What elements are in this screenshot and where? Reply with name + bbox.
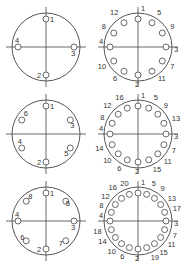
bolt-hole (151, 195, 157, 201)
bolt-hole (119, 195, 125, 201)
bolt-hole (162, 227, 168, 233)
bolt-hole (135, 246, 141, 252)
hole-number-label: 8 (100, 113, 104, 122)
bolt-hole (43, 16, 49, 22)
bolt-hole (124, 105, 130, 111)
hole-number-label: 8 (102, 22, 106, 31)
hole-number-label: 3 (71, 49, 75, 58)
hole-number-label: 11 (164, 157, 172, 166)
hole-number-label: 1 (141, 4, 145, 13)
bolt-hole (151, 241, 157, 247)
bolt-hole (109, 120, 115, 126)
bolt-hole (144, 245, 150, 251)
bolt-hole (158, 234, 164, 240)
bolt-hole (163, 218, 169, 224)
bolt-hole (149, 68, 155, 74)
bolt-hole (135, 159, 141, 165)
hole-number-label: 6 (113, 74, 117, 83)
bolt-hole (124, 157, 130, 163)
bolt-hole (43, 103, 49, 109)
hole-number-label: 9 (170, 22, 174, 31)
hole-number-label: 3 (70, 121, 74, 130)
bolt-hole (115, 151, 121, 157)
bolt-hole (126, 191, 132, 197)
hole-number-label: 19 (151, 253, 159, 262)
hole-number-label: 16 (109, 183, 117, 192)
bolt-hole (144, 191, 150, 197)
hole-number-label: 4 (18, 137, 22, 146)
hole-number-label: 10 (103, 156, 111, 165)
hole-number-label: 5 (64, 149, 68, 158)
pattern-4: 1324 (6, 7, 86, 87)
bolt-hole (161, 120, 167, 126)
hole-number-label: 13 (168, 194, 176, 203)
bolt-hole (146, 157, 152, 163)
pattern-6: 135246 (6, 94, 86, 174)
bolt-hole (112, 202, 118, 208)
bolt-hole (43, 246, 49, 252)
bolt-hole (63, 238, 69, 244)
hole-number-label: 6 (24, 109, 28, 118)
hole-number-label: 6 (20, 233, 24, 242)
hole-number-label: 13 (172, 114, 180, 123)
hole-number-label: 6 (117, 164, 121, 173)
bolt-hole (159, 58, 165, 64)
hole-number-label: 5 (154, 93, 158, 102)
hole-number-label: 9 (160, 184, 164, 193)
pattern-12: 159371126104812 (98, 4, 178, 89)
hole-number-label: 1 (141, 178, 145, 187)
hole-number-label: 1 (50, 102, 54, 111)
bolt-hole (108, 227, 114, 233)
bolt-hole (159, 30, 165, 36)
bolt-hole (135, 16, 141, 22)
hole-number-label: 7 (59, 239, 63, 248)
hole-number-label: 7 (172, 146, 176, 155)
hole-number-label: 3 (174, 132, 178, 141)
bolt-hole (126, 245, 132, 251)
bolt-hole (158, 202, 164, 208)
hole-number-label: 17 (173, 204, 181, 213)
bolt-hole (43, 159, 49, 165)
hole-number-label: 16 (115, 93, 123, 102)
bolt-hole (107, 218, 113, 224)
hole-number-label: 1 (50, 189, 54, 198)
bolt-hole (135, 72, 141, 78)
hole-number-label: 2 (135, 80, 139, 89)
hole-number-label: 11 (168, 240, 176, 249)
bolt-hole (43, 190, 49, 196)
hole-number-label: 2 (135, 254, 139, 263)
hole-number-label: 4 (15, 36, 19, 45)
bolt-hole (155, 111, 161, 117)
hole-number-label: 9 (164, 101, 168, 110)
hole-number-label: 5 (157, 8, 161, 17)
hole-number-label: 11 (158, 74, 166, 83)
hole-number-label: 2 (37, 245, 41, 254)
hole-number-label: 4 (15, 210, 19, 219)
hole-number-label: 3 (71, 223, 75, 232)
bolt-hole (111, 30, 117, 36)
bolt-hole (121, 68, 127, 74)
bolt-hole (135, 190, 141, 196)
hole-number-label: 4 (99, 124, 103, 133)
hole-number-label: 3 (174, 219, 178, 228)
bolt-hole (135, 103, 141, 109)
pattern-20: 1591317371115192610141848121620 (93, 178, 181, 263)
hole-number-label: 14 (98, 237, 106, 246)
hole-number-label: 10 (98, 62, 106, 71)
hole-number-label: 2 (135, 167, 139, 176)
hole-number-label: 8 (99, 201, 103, 210)
bolt-hole (161, 142, 167, 148)
bolt-hole (155, 151, 161, 157)
hole-number-label: 2 (37, 71, 41, 80)
bolt-hole (162, 209, 168, 215)
hole-number-label: 10 (108, 247, 116, 256)
hole-number-label: 20 (120, 179, 128, 188)
bolt-hole (149, 20, 155, 26)
bolt-hole (146, 105, 152, 111)
bolt-hole (112, 234, 118, 240)
hole-number-label: 7 (170, 62, 174, 71)
hole-number-label: 12 (101, 192, 109, 201)
hole-number-label: 14 (95, 144, 103, 153)
bolt-hole (43, 72, 49, 78)
hole-number-label: 6 (120, 252, 124, 261)
